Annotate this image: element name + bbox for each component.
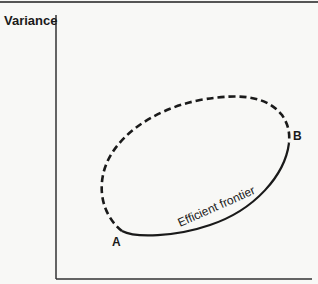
efficient-frontier-curve	[122, 143, 289, 235]
diagram-canvas: Variance A B Efficient frontier	[0, 0, 318, 284]
point-a-label: A	[112, 235, 121, 249]
point-b-label: B	[293, 129, 302, 143]
efficient-frontier-diagram: Variance A B Efficient frontier	[0, 0, 318, 284]
y-axis-label: Variance	[4, 13, 58, 28]
